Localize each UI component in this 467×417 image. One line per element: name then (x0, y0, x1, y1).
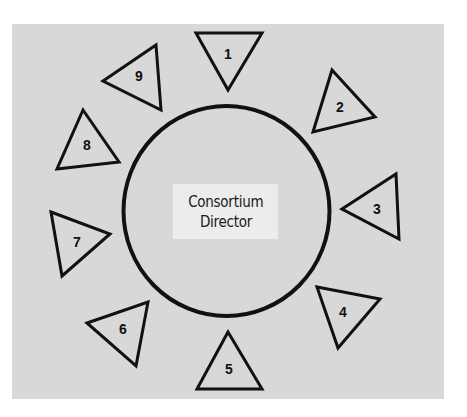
hub-label: Consortium Director (173, 184, 278, 239)
member-number: 8 (83, 137, 91, 153)
member-number: 5 (225, 361, 233, 377)
hub-label-line-1: Consortium (188, 192, 263, 212)
hub-label-line-2: Director (199, 212, 251, 232)
member-number: 6 (119, 321, 127, 337)
member-number: 7 (73, 234, 81, 250)
member-number: 4 (339, 304, 347, 320)
member-number: 2 (336, 99, 344, 115)
member-number: 1 (224, 46, 232, 62)
member-number: 9 (135, 68, 143, 84)
member-number: 3 (373, 201, 381, 217)
